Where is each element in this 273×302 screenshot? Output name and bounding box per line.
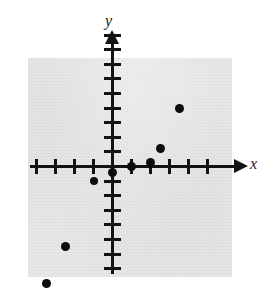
y-axis-tick [104, 267, 121, 270]
y-axis-tick [104, 34, 121, 37]
x-axis-tick [206, 159, 209, 174]
x-axis-tick [92, 159, 95, 174]
y-axis-tick [104, 92, 121, 95]
y-axis-arrow-icon [105, 30, 119, 44]
data-point [156, 144, 165, 153]
y-axis-tick [104, 48, 121, 51]
data-point [175, 104, 184, 113]
y-axis-tick [104, 238, 121, 241]
y-axis-tick [104, 223, 121, 226]
data-point [146, 158, 155, 167]
y-axis-tick [104, 253, 121, 256]
x-axis-tick [54, 159, 57, 174]
y-axis-tick [104, 180, 121, 183]
scatter-plot-figure: x y [0, 0, 273, 302]
y-axis-tick [104, 63, 121, 66]
x-axis-arrow-icon [234, 159, 248, 173]
y-axis-tick [104, 194, 121, 197]
data-point [42, 279, 51, 288]
y-axis-tick [104, 150, 121, 153]
y-axis-tick [104, 209, 121, 212]
x-axis-label: x [250, 155, 257, 173]
y-axis-tick [104, 121, 121, 124]
data-point [108, 168, 117, 177]
x-axis-tick [168, 159, 171, 174]
x-axis-tick [35, 159, 38, 174]
y-axis-tick [104, 107, 121, 110]
y-axis-label: y [105, 12, 112, 30]
data-point [61, 242, 70, 251]
x-axis-tick [73, 159, 76, 174]
data-point [90, 177, 98, 185]
x-axis-tick [187, 159, 190, 174]
data-point [127, 162, 136, 171]
y-axis-tick [104, 77, 121, 80]
y-axis-tick [104, 136, 121, 139]
